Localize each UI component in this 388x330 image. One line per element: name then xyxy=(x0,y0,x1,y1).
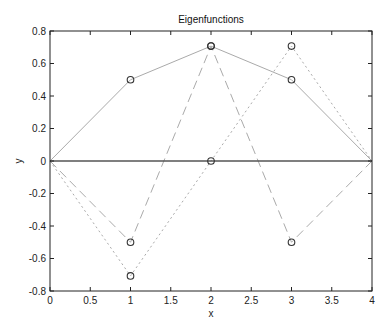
eigenfunctions-chart: Eigenfunctions00.511.522.533.54-0.8-0.6-… xyxy=(0,0,388,330)
y-tick-label: -0.8 xyxy=(29,286,47,297)
y-tick-label: 0.4 xyxy=(32,91,46,102)
y-tick-label: 0 xyxy=(40,156,46,167)
chart-title: Eigenfunctions xyxy=(178,14,244,25)
x-tick-label: 0 xyxy=(47,295,53,306)
x-tick-label: 4 xyxy=(369,295,375,306)
y-tick-label: -0.6 xyxy=(29,253,47,264)
y-tick-label: 0.8 xyxy=(32,26,46,37)
y-tick-label: -0.2 xyxy=(29,188,47,199)
x-tick-label: 1 xyxy=(128,295,134,306)
x-tick-label: 3 xyxy=(289,295,295,306)
x-tick-label: 0.5 xyxy=(83,295,97,306)
x-tick-label: 1.5 xyxy=(164,295,178,306)
x-tick-label: 2 xyxy=(208,295,214,306)
y-axis-label: y xyxy=(13,159,24,164)
y-tick-label: 0.6 xyxy=(32,58,46,69)
y-tick-label: 0.2 xyxy=(32,123,46,134)
series-line-eigenfunction-1 xyxy=(50,46,372,161)
y-tick-label: -0.4 xyxy=(29,221,47,232)
x-tick-label: 2.5 xyxy=(244,295,258,306)
x-tick-label: 3.5 xyxy=(325,295,339,306)
x-axis-label: x xyxy=(209,308,214,319)
series-line-eigenfunction-2 xyxy=(50,46,372,242)
